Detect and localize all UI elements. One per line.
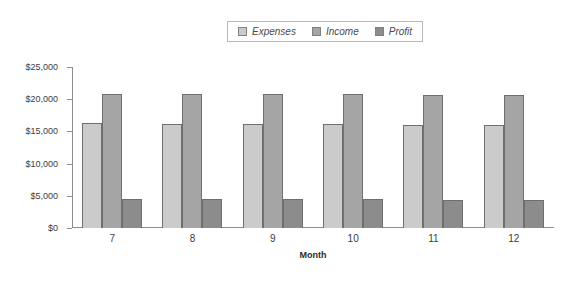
x-tick-label-8: 8 — [152, 233, 232, 244]
bar-profit-11[interactable] — [443, 200, 463, 228]
bar-income-11[interactable] — [423, 95, 443, 228]
bar-expenses-10[interactable] — [323, 124, 343, 228]
x-tick-label-9: 9 — [233, 233, 313, 244]
legend-swatch-icon — [375, 27, 384, 36]
x-axis-labels: 7 8 9 10 11 12 — [72, 233, 554, 244]
bar-profit-7[interactable] — [122, 199, 142, 228]
x-tick-label-12: 12 — [474, 233, 554, 244]
bar-group — [393, 67, 473, 228]
legend-label-expenses: Expenses — [252, 26, 296, 37]
x-tick-label-11: 11 — [393, 233, 473, 244]
legend-item-expenses[interactable]: Expenses — [238, 26, 296, 37]
bar-expenses-11[interactable] — [403, 125, 423, 228]
bar-income-12[interactable] — [504, 95, 524, 228]
y-tick-label-1: $5,000 — [30, 191, 58, 201]
bar-group — [474, 67, 554, 228]
legend-swatch-icon — [312, 27, 321, 36]
bar-expenses-8[interactable] — [162, 124, 182, 228]
legend-label-profit: Profit — [389, 26, 412, 37]
y-tick-label-2: $10,000 — [25, 159, 58, 169]
bar-expenses-9[interactable] — [243, 124, 263, 228]
legend-swatch-icon — [238, 27, 247, 36]
bar-group — [313, 67, 393, 228]
y-tick-label-5: $25,000 — [25, 62, 58, 72]
y-tick-label-4: $20,000 — [25, 94, 58, 104]
y-tick-0: $0 — [67, 228, 72, 229]
y-tick-label-0: $0 — [48, 223, 58, 233]
bar-profit-8[interactable] — [202, 199, 222, 228]
legend-item-profit[interactable]: Profit — [375, 26, 412, 37]
bar-profit-12[interactable] — [524, 200, 544, 228]
bar-group — [233, 67, 313, 228]
bar-expenses-7[interactable] — [82, 123, 102, 228]
bar-income-9[interactable] — [263, 94, 283, 228]
bar-groups — [72, 67, 554, 228]
bar-group — [152, 67, 232, 228]
x-tick-label-7: 7 — [72, 233, 152, 244]
bar-income-10[interactable] — [343, 94, 363, 228]
bar-group — [72, 67, 152, 228]
bar-profit-10[interactable] — [363, 199, 383, 228]
legend-item-income[interactable]: Income — [312, 26, 359, 37]
x-axis-title: Month — [72, 250, 554, 260]
bar-income-8[interactable] — [182, 94, 202, 228]
legend-label-income: Income — [326, 26, 359, 37]
plot-area: $0 $5,000 $10,000 $15,000 $20,000 $25,00… — [72, 67, 554, 228]
chart-legend: Expenses Income Profit — [227, 21, 423, 42]
bar-profit-9[interactable] — [283, 199, 303, 228]
bar-expenses-12[interactable] — [484, 125, 504, 228]
bar-income-7[interactable] — [102, 94, 122, 228]
y-tick-label-3: $15,000 — [25, 126, 58, 136]
x-tick-label-10: 10 — [313, 233, 393, 244]
bar-chart: Expenses Income Profit $0 $5,000 $10,000… — [0, 0, 582, 281]
